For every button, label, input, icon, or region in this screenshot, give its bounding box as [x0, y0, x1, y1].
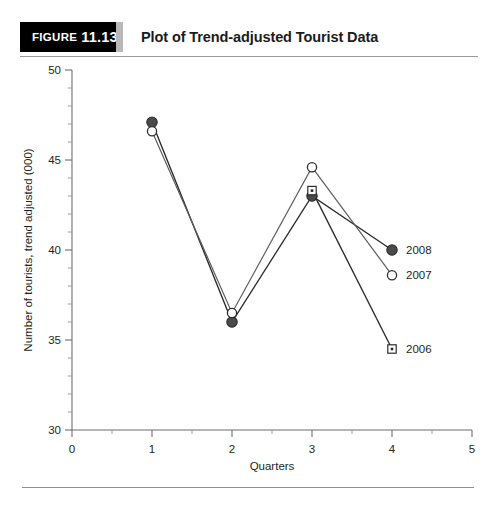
x-tick-label: 1 — [149, 443, 155, 455]
series-label-2008: 2008 — [406, 244, 432, 256]
chart-area: 3035404550 012345 Number of tourists, tr… — [0, 0, 495, 510]
data-point-marker-filled-circle — [387, 245, 397, 255]
data-point-marker-open-circle — [227, 308, 236, 317]
y-axis-title: Number of tourists, trend adjusted (000) — [22, 148, 34, 351]
x-tick-label: 5 — [469, 443, 475, 455]
series-label-2007: 2007 — [406, 269, 432, 281]
data-point-marker-filled-circle — [147, 117, 157, 127]
figure-page: Figure 11.13 Plot of Trend-adjusted Tour… — [0, 0, 495, 510]
line-chart-svg: 3035404550 012345 Number of tourists, tr… — [0, 0, 495, 510]
x-tick-label: 2 — [229, 443, 235, 455]
data-point-marker-open-circle — [307, 163, 316, 172]
y-axis-tick-labels: 3035404550 — [48, 64, 61, 436]
data-point-marker-open-circle — [387, 271, 396, 280]
y-tick-label: 30 — [48, 424, 61, 436]
x-axis-ticks — [72, 430, 472, 437]
x-tick-label: 3 — [309, 443, 315, 455]
y-tick-label: 50 — [48, 64, 61, 76]
x-axis-tick-labels: 012345 — [69, 443, 475, 455]
data-point-marker-square-center — [391, 348, 394, 351]
series-label-2006: 2006 — [406, 343, 432, 355]
series-lines — [152, 122, 392, 349]
y-tick-label: 45 — [48, 154, 61, 166]
series-line-2008 — [152, 122, 392, 322]
y-axis-ticks — [65, 70, 72, 430]
series-labels: 200820072006 — [406, 244, 432, 355]
series-line-2007 — [152, 131, 392, 313]
x-axis-title: Quarters — [250, 460, 295, 472]
y-tick-label: 40 — [48, 244, 61, 256]
series-markers — [147, 117, 397, 353]
data-point-marker-open-circle — [147, 127, 156, 136]
y-tick-label: 35 — [48, 334, 61, 346]
x-tick-label: 4 — [389, 443, 396, 455]
data-point-marker-square-center — [311, 189, 314, 192]
data-point-marker-filled-circle — [227, 317, 237, 327]
footer-divider — [22, 487, 474, 488]
x-tick-label: 0 — [69, 443, 75, 455]
series-line-2006 — [312, 191, 392, 349]
